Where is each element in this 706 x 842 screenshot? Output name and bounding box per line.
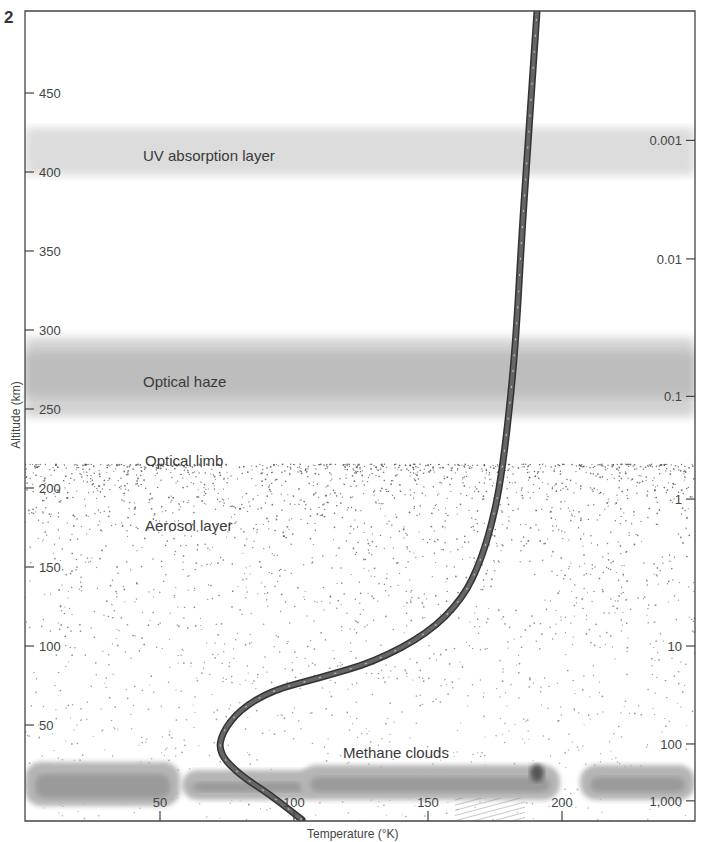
y-tick-label: 400 xyxy=(39,165,61,180)
temperature-altitude-chart: 50100150200250300350400450501001502000.0… xyxy=(0,0,706,842)
rain-hatch xyxy=(455,798,525,821)
y-tick-label: 200 xyxy=(39,481,61,496)
y-tick-label: 300 xyxy=(39,323,61,338)
x-tick-label: 200 xyxy=(551,795,573,810)
y2-tick-label: 1 xyxy=(675,492,682,507)
x-tick-label: 50 xyxy=(153,795,167,810)
y-tick-label: 50 xyxy=(39,718,53,733)
y2-tick-label: 1,000 xyxy=(649,794,682,809)
y2-tick-label: 100 xyxy=(660,737,682,752)
optical-haze-label: Optical haze xyxy=(143,373,226,390)
y2-tick-label: 0.01 xyxy=(657,252,682,267)
uv-absorption-label: UV absorption layer xyxy=(143,147,275,164)
y-tick-label: 350 xyxy=(39,244,61,259)
y-tick-label: 150 xyxy=(39,560,61,575)
methane-cloud-band xyxy=(25,762,695,821)
y-tick-label: 450 xyxy=(39,86,61,101)
uv-absorption-band xyxy=(25,128,695,175)
y-axis-title: Altitude (km) xyxy=(9,365,23,465)
x-axis-title: Temperature (°K) xyxy=(307,827,399,841)
y2-tick-label: 0.001 xyxy=(649,133,682,148)
storm-cell xyxy=(530,764,544,782)
aerosol-layer-label: Aerosol layer xyxy=(145,517,233,534)
x-tick-label: 100 xyxy=(283,795,305,810)
optical-limb-label: Optical limb xyxy=(145,452,223,469)
y-tick-label: 250 xyxy=(39,402,61,417)
y-tick-label: 100 xyxy=(39,639,61,654)
methane-clouds-label: Methane clouds xyxy=(343,744,449,761)
x-tick-label: 150 xyxy=(417,795,439,810)
y2-tick-label: 10 xyxy=(668,639,682,654)
optical-haze-band xyxy=(25,338,695,417)
y2-tick-label: 0.1 xyxy=(664,389,682,404)
